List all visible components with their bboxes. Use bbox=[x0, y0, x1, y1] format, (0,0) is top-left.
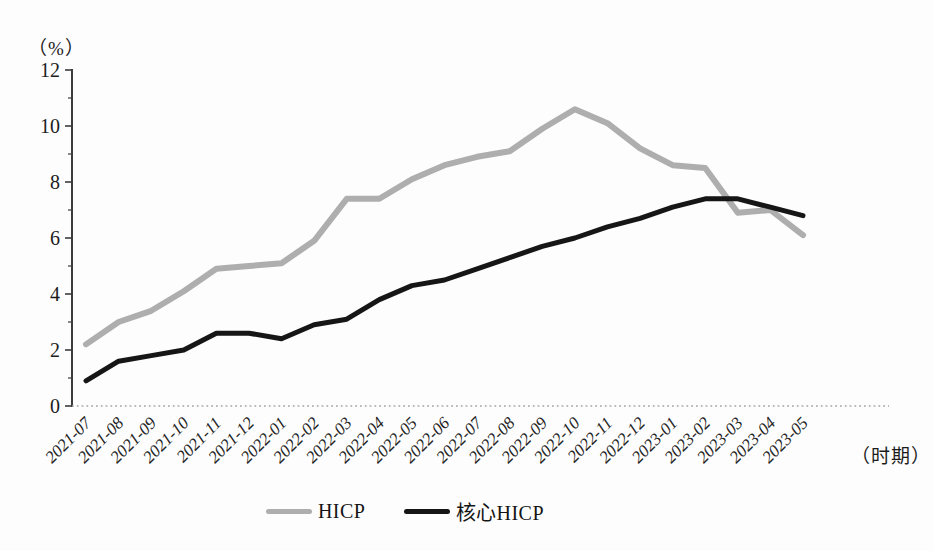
core-hicp-line-swatch bbox=[404, 509, 450, 514]
x-axis-unit-label: （时期） bbox=[851, 446, 931, 467]
chart-canvas: （%） （时期） 0246810122021-072021-082021-092… bbox=[0, 0, 933, 551]
legend-label-core-hicp: 核心HICP bbox=[456, 497, 545, 526]
legend-label-hicp: HICP bbox=[318, 500, 366, 523]
hicp-line-swatch bbox=[266, 509, 312, 514]
legend-item-core-hicp: 核心HICP bbox=[404, 497, 545, 526]
y-tick-label: 12 bbox=[40, 59, 60, 81]
y-tick-label: 10 bbox=[40, 115, 60, 137]
hicp-chart-figure: （%） （时期） 0246810122021-072021-082021-092… bbox=[0, 0, 933, 551]
y-tick-label: 4 bbox=[50, 283, 60, 305]
hicp-line bbox=[86, 109, 803, 344]
chart-legend: HICP 核心HICP bbox=[0, 497, 810, 526]
y-tick-label: 8 bbox=[50, 171, 60, 193]
y-tick-label: 0 bbox=[50, 395, 60, 417]
y-tick-label: 6 bbox=[50, 227, 60, 249]
core-hicp-line bbox=[86, 199, 803, 381]
y-axis-unit-label: （%） bbox=[28, 38, 85, 59]
legend-item-hicp: HICP bbox=[266, 500, 366, 523]
y-tick-label: 2 bbox=[50, 339, 60, 361]
